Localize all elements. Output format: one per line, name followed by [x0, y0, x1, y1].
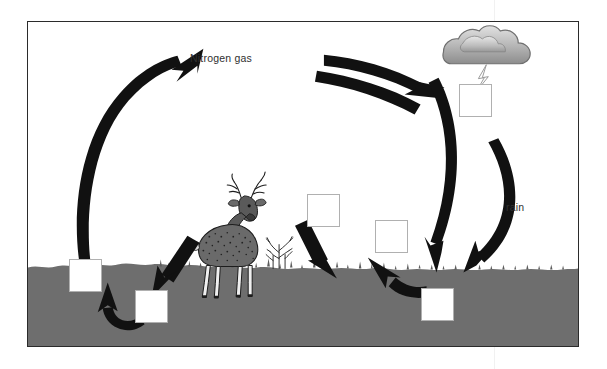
nitrogen-cycle-worksheet: Nitrogen gas rain	[0, 0, 607, 369]
label-rain: rain	[506, 201, 524, 213]
diagram-canvas	[28, 22, 578, 346]
cloud-icon	[443, 26, 530, 64]
arrow-fixation-down-to-soil	[425, 78, 458, 273]
shrub-illustration	[266, 237, 293, 269]
box-soil-nitrogen[interactable]	[421, 288, 454, 321]
box-plant-uptake[interactable]	[307, 194, 340, 227]
box-atmospheric-fixation[interactable]	[459, 84, 492, 117]
arrow-soil-to-atmosphere	[77, 49, 204, 266]
box-denitrification[interactable]	[69, 259, 102, 292]
box-nitrification[interactable]	[375, 220, 408, 253]
diagram-frame	[27, 21, 579, 347]
label-nitrogen-gas: Nitrogen gas	[190, 52, 252, 64]
box-soil-bacteria[interactable]	[135, 290, 168, 323]
